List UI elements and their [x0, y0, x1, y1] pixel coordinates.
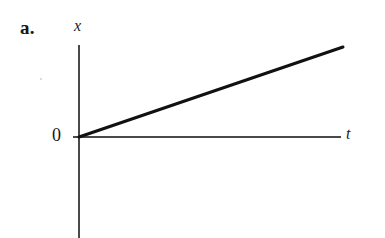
panel-label: a. — [20, 18, 35, 37]
scan-artifact-speck — [40, 78, 42, 80]
y-axis-label: x — [74, 18, 81, 34]
figure-container: a. x t 0 — [0, 0, 385, 238]
x-axis-label: t — [346, 126, 350, 142]
data-series-line — [79, 47, 343, 137]
plot-canvas — [0, 0, 385, 238]
origin-label: 0 — [52, 126, 61, 144]
